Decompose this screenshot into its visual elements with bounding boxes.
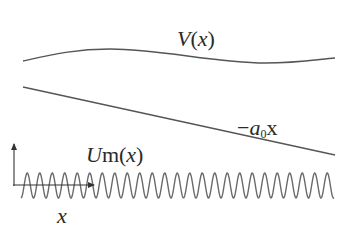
tilt-line xyxy=(23,87,335,155)
v-label: V(x) xyxy=(177,26,215,51)
tilt-label: −a0x xyxy=(237,115,277,141)
um-label: Um(x) xyxy=(86,142,143,167)
potential-diagram: V(x) −a0x Um(x) x xyxy=(0,0,355,233)
v-curve xyxy=(23,49,335,63)
x-axis-label: x xyxy=(56,203,67,228)
